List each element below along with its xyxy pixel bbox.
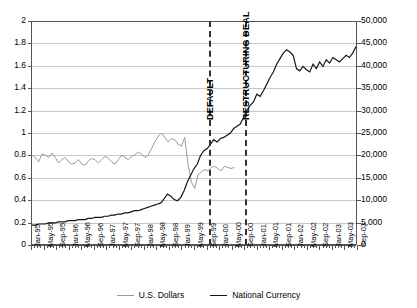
x-axis-tick-label: Sep-01 (285, 223, 293, 247)
y-axis-right-tick-label: 35,000 (361, 83, 413, 92)
x-axis-tick-label: Sep-00 (247, 223, 255, 247)
y-axis-right-tick-label: 15,000 (361, 173, 413, 182)
x-axis-tick-label: May-02 (310, 222, 318, 247)
x-axis-tick-label: Jan-98 (147, 224, 155, 247)
y-axis-right-tick-label: 45,000 (361, 38, 413, 47)
legend-swatch (117, 295, 134, 296)
y-axis-right-tick-mark (357, 43, 361, 44)
y-axis-right-tick-mark (357, 133, 361, 134)
x-axis-tick-label: Jan-99 (184, 224, 192, 247)
event-label: DEFAULT (205, 78, 215, 120)
event-label: RESTRUCTURING DEAL (241, 11, 251, 120)
legend-item: National Currency (210, 291, 300, 300)
chart-container: 00.20.40.60.811.21.41.61.82 05,00010,000… (0, 0, 417, 308)
x-axis-tick-label: Jan-96 (72, 224, 80, 247)
y-axis-left-tick-label: 1.6 (0, 61, 26, 70)
y-axis-left-tick-label: 0.4 (0, 195, 26, 204)
x-axis-tick-label: Sep-99 (210, 223, 218, 247)
y-axis-right-tick-label: 5,000 (361, 218, 413, 227)
x-axis-tick-label: Jan-03 (335, 224, 343, 247)
x-axis-tick-label: Jan-01 (260, 224, 268, 247)
chart-legend: U.S. DollarsNational Currency (0, 287, 417, 303)
plot-area (31, 21, 357, 245)
series-line-us-dollars (32, 133, 235, 189)
y-axis-left-tick-label: 1.2 (0, 106, 26, 115)
y-axis-left-tick-label: 1.8 (0, 38, 26, 47)
x-axis-tick-label: May-98 (159, 222, 167, 247)
y-axis-right-tick-mark (357, 66, 361, 67)
y-axis-right-tick-mark (357, 21, 361, 22)
y-axis-right-tick-mark (357, 155, 361, 156)
y-axis-left-tick-label: 1 (0, 128, 26, 137)
x-axis-tick-label: Jan-00 (222, 224, 230, 247)
x-axis-tick-label: May-99 (197, 222, 205, 247)
x-axis-tick-label: Sep-02 (322, 223, 330, 247)
y-axis-right-tick-mark (357, 111, 361, 112)
y-axis-left-tick-label: 0.2 (0, 218, 26, 227)
y-axis-right-tick-label: 50,000 (361, 16, 413, 25)
legend-item: U.S. Dollars (117, 291, 184, 300)
x-axis-tick-label: Sep-96 (97, 223, 105, 247)
y-axis-right-tick-label: 25,000 (361, 128, 413, 137)
y-axis-right-tick-mark (357, 200, 361, 201)
y-axis-left-tick-label: 1.4 (0, 83, 26, 92)
y-axis-right-tick-mark (357, 88, 361, 89)
y-axis-left-tick-label: 0.8 (0, 150, 26, 159)
x-axis-tick-label: Jan-02 (297, 224, 305, 247)
legend-label: U.S. Dollars (139, 291, 184, 300)
x-axis-tick-label: May-95 (47, 222, 55, 247)
x-axis-labels: Jan-95May-95Sep-95Jan-96May-96Sep-96Jan-… (0, 247, 417, 287)
x-axis-tick-label: May-03 (347, 222, 355, 247)
x-axis-tick-label: Sep-97 (134, 223, 142, 247)
event-line (209, 21, 211, 245)
x-axis-tick-label: May-97 (122, 222, 130, 247)
legend-swatch (210, 295, 227, 296)
y-axis-right-tick-label: 40,000 (361, 61, 413, 70)
x-axis-tick-label: May-01 (272, 222, 280, 247)
y-axis-right-tick-label: 30,000 (361, 106, 413, 115)
y-axis-right-tick-label: 10,000 (361, 195, 413, 204)
series-line-national-currency (32, 46, 356, 225)
legend-label: National Currency (232, 291, 300, 300)
y-axis-left-tick-label: 0.6 (0, 173, 26, 182)
x-axis-tick-label: Jan-95 (34, 224, 42, 247)
x-axis-tick-label: Sep-95 (59, 223, 67, 247)
x-axis-tick-label: May-96 (84, 222, 92, 247)
y-axis-right-tick-label: 20,000 (361, 150, 413, 159)
x-axis-tick-label: May-00 (235, 222, 243, 247)
x-axis-tick-label: Sep-98 (172, 223, 180, 247)
x-axis-tick-label: Sep-03 (360, 223, 368, 247)
y-axis-right-tick-mark (357, 178, 361, 179)
x-axis-tick-label: Jan-97 (109, 224, 117, 247)
series-layer (32, 22, 356, 244)
y-axis-left-tick-label: 2 (0, 16, 26, 25)
